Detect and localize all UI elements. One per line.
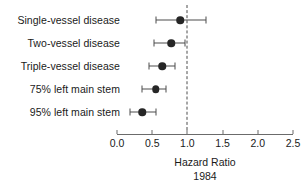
point-estimate-marker <box>177 16 185 24</box>
x-axis-line <box>117 134 293 135</box>
x-axis-tick-label: 0.0 <box>110 138 125 149</box>
x-axis-tick <box>117 130 118 134</box>
x-axis-tick-label: 1.5 <box>215 138 230 149</box>
x-axis-tick-label: 1.0 <box>180 138 195 149</box>
x-axis-tick <box>152 130 153 134</box>
ci-cap-low <box>148 63 149 70</box>
ci-cap-low <box>142 86 143 93</box>
interval-row <box>0 36 303 50</box>
x-axis-tick <box>293 130 294 134</box>
interval-row <box>0 13 303 27</box>
x-axis-tick-label: 0.5 <box>145 138 160 149</box>
point-estimate-marker <box>139 108 147 116</box>
x-axis-tick <box>187 130 188 134</box>
point-estimate-marker <box>167 39 175 47</box>
ci-cap-low <box>153 40 154 47</box>
interval-row <box>0 82 303 96</box>
ci-cap-high <box>174 63 175 70</box>
ci-cap-high <box>166 86 167 93</box>
reference-line <box>187 5 188 130</box>
x-axis-tick-label: 2.5 <box>286 138 301 149</box>
interval-row <box>0 105 303 119</box>
ci-cap-high <box>184 40 185 47</box>
forest-plot-figure: Single-vessel diseaseTwo-vessel diseaseT… <box>0 0 303 185</box>
ci-cap-low <box>129 109 130 116</box>
x-axis-tick-label: 2.0 <box>250 138 265 149</box>
axis-subtitle: 1984 <box>0 171 303 182</box>
x-axis-tick <box>257 130 258 134</box>
x-axis-tick <box>222 130 223 134</box>
ci-cap-high <box>206 17 207 24</box>
interval-row <box>0 59 303 73</box>
point-estimate-marker <box>152 85 160 93</box>
point-estimate-marker <box>158 62 166 70</box>
ci-cap-high <box>156 109 157 116</box>
ci-cap-low <box>156 17 157 24</box>
axis-title: Hazard Ratio <box>0 157 303 168</box>
